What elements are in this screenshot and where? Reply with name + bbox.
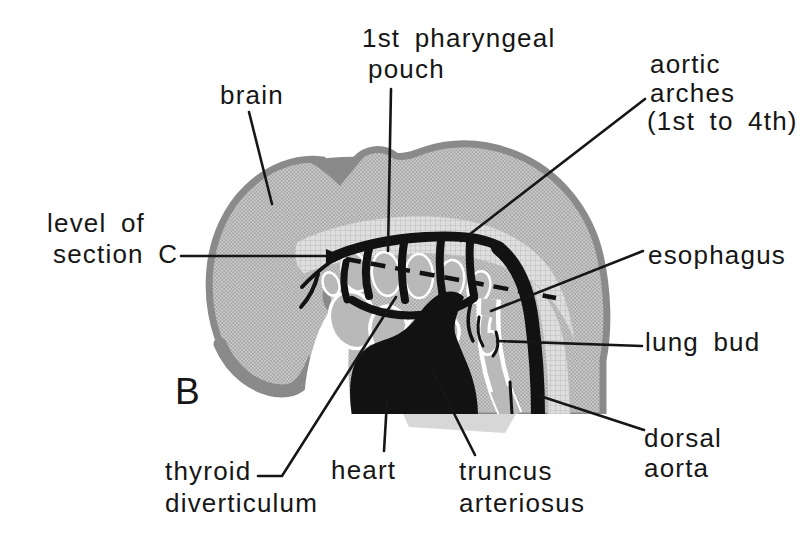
label-line: thyroid bbox=[165, 455, 318, 487]
label-line: level of bbox=[47, 208, 178, 239]
aortic-arch-vessel bbox=[366, 249, 369, 296]
panel-letter-text: B bbox=[175, 376, 200, 407]
label-aortic-arches: aortic arches (1st to 4th) bbox=[650, 50, 798, 136]
label-line: aortic bbox=[650, 50, 798, 79]
label-first-pharyngeal-pouch: 1st pharyngeal pouch bbox=[362, 23, 555, 85]
anatomy-artwork bbox=[209, 144, 607, 416]
label-lung-bud-text: lung bud bbox=[645, 327, 760, 358]
label-esophagus-text: esophagus bbox=[648, 240, 786, 271]
label-line: arches bbox=[650, 79, 798, 108]
label-level-of-section-c: level of section C bbox=[45, 208, 178, 270]
esophagus-aorta-divider bbox=[510, 382, 512, 414]
label-line: pouch bbox=[368, 54, 555, 85]
label-heart: heart bbox=[331, 455, 396, 486]
label-line: 1st pharyngeal bbox=[362, 23, 555, 54]
label-line: aorta bbox=[644, 453, 722, 483]
label-lung-bud: lung bud bbox=[645, 327, 760, 358]
aortic-arch-vessel bbox=[344, 262, 347, 300]
label-line: truncus bbox=[459, 455, 585, 487]
label-brain-text: brain bbox=[220, 80, 284, 111]
label-brain: brain bbox=[220, 80, 284, 111]
label-dorsal-aorta: dorsal aorta bbox=[644, 423, 722, 483]
panel-letter: B bbox=[175, 376, 200, 407]
label-line: diverticulum bbox=[165, 487, 318, 519]
aortic-arch-vessel bbox=[470, 243, 474, 295]
label-thyroid-diverticulum: thyroid diverticulum bbox=[165, 455, 318, 519]
label-truncus-arteriosus: truncus arteriosus bbox=[459, 455, 585, 519]
label-heart-text: heart bbox=[331, 455, 396, 486]
lung-bud-stalk bbox=[484, 316, 488, 345]
label-line: (1st to 4th) bbox=[647, 107, 798, 136]
aortic-arch-vessel bbox=[440, 240, 443, 299]
figure-panel: brain 1st pharyngeal pouch aortic arches… bbox=[0, 0, 808, 543]
label-line: section C bbox=[53, 239, 178, 270]
label-line: arteriosus bbox=[459, 487, 585, 519]
label-esophagus: esophagus bbox=[648, 240, 786, 271]
label-line: dorsal bbox=[644, 423, 722, 453]
